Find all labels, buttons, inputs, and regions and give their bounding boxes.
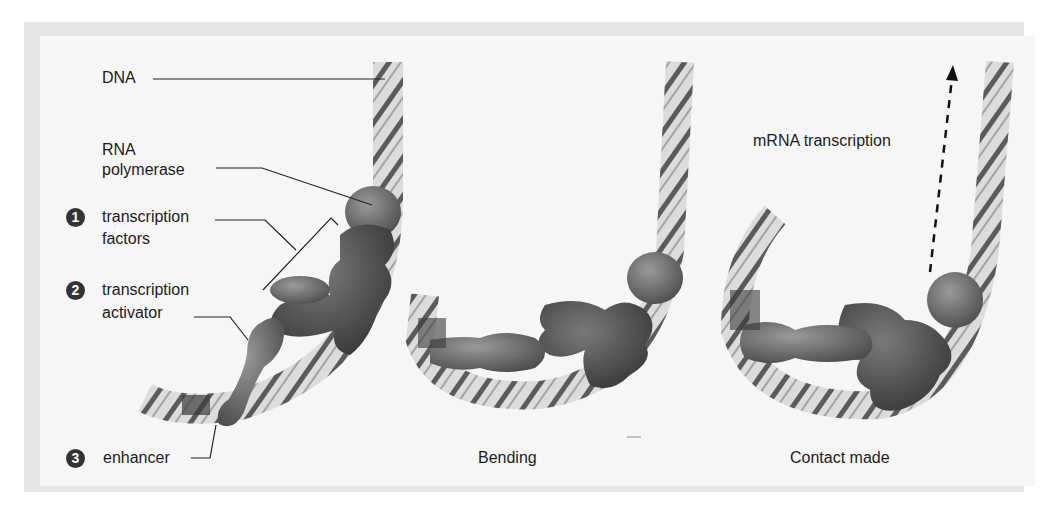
transcription-factors-label-line2: factors xyxy=(102,229,150,249)
enhancer-label: enhancer xyxy=(103,448,170,468)
step-badge-3: 3 xyxy=(66,449,85,468)
diagram-artwork xyxy=(0,0,1061,507)
proteins-panel-2 xyxy=(418,252,683,388)
panel-caption-contact-made: Contact made xyxy=(790,448,890,468)
enhancer-leader-line xyxy=(191,425,216,458)
transcription-activator-leader-line xyxy=(194,317,248,340)
mrna-transcription-arrow xyxy=(930,65,958,272)
dna-label: DNA xyxy=(102,68,136,88)
rna-polymerase-label-line2: polymerase xyxy=(102,160,185,180)
transcription-factors-leader-line xyxy=(215,220,296,250)
transcription-factors-label-line1: transcription xyxy=(102,207,189,227)
mrna-transcription-label: mRNA transcription xyxy=(753,131,891,151)
transcription-activator-label-line1: transcription xyxy=(102,280,189,300)
step-badge-1: 1 xyxy=(66,208,85,227)
step-badge-2: 2 xyxy=(66,281,85,300)
rna-polymerase-label-line1: RNA xyxy=(102,140,136,160)
panel-caption-bending: Bending xyxy=(478,448,537,468)
transcription-activator-label-line2: activator xyxy=(102,303,162,323)
